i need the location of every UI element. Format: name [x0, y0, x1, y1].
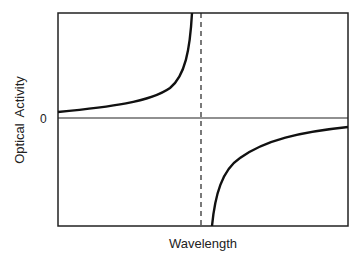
y-tick-zero: 0 — [40, 112, 47, 126]
right-curve — [212, 127, 348, 226]
chart-canvas — [0, 0, 361, 267]
left-curve — [58, 13, 192, 112]
x-axis-label: Wavelength — [169, 236, 237, 251]
plot-frame — [58, 13, 348, 226]
y-axis-label: Optical Activity — [12, 76, 27, 164]
